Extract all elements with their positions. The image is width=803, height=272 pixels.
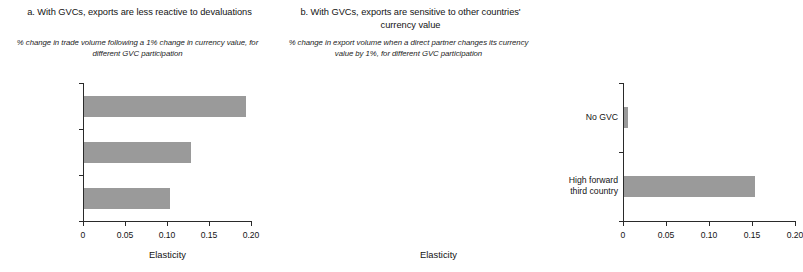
panel-a-x-tick-label-2: 0.10 [159,230,176,240]
panel-a-y-tick-2 [79,175,83,176]
panel-a-x-tick-1 [125,222,126,226]
panel-b-x-tick-label-1: 0.05 [658,230,675,240]
panel-b-plot-area: 0 0.05 0.10 0.15 0.20 No GVC High forwar… [623,83,796,222]
panel-a-y-tick-top [79,83,83,84]
panel-b-category-label-high-forward-third-country: High forward third country [508,175,618,197]
panel-a-bar-high-forward-return-domestic [84,188,170,209]
panel-b-x-tick-label-2: 0.10 [701,230,718,240]
panel-a-x-tick-label-4: 0.20 [243,230,260,240]
panel-a-bar-high-backward-gvc-participation [84,142,191,163]
panel-b-bar-high-forward-third-country [624,176,755,197]
panel-b-y-axis-line [623,83,624,222]
panel-b-subtitle: % change in export volume when a direct … [281,38,536,59]
panel-a-x-tick-label-0: 0 [81,230,86,240]
panel-a-x-tick-label-3: 0.15 [201,230,218,240]
panel-a-plot-area: 0 0.05 0.10 0.15 0.20 No GVC High backwa… [83,83,252,222]
panel-b-y-tick-top [619,83,623,84]
panel-a-x-tick-2 [167,222,168,226]
panel-b-bar-no-gvc [624,107,628,128]
panel-b-x-tick-label-0: 0 [621,230,626,240]
panel-b-x-tick-label-4: 0.20 [787,230,803,240]
panel-a-x-axis-title: Elasticity [83,249,252,260]
panel-a-x-tick-0 [83,222,84,226]
panel-b: b. With GVCs, exports are sensitive to o… [271,0,542,272]
panel-a-bar-no-gvc [84,96,246,117]
panel-a-y-tick-1 [79,129,83,130]
panel-a-subtitle: % change in trade volume following a 1% … [10,38,265,59]
panel-b-x-axis-title: Elasticity [352,249,525,260]
panel-a-x-tick-3 [209,222,210,226]
panel-b-title: b. With GVCs, exports are sensitive to o… [285,6,536,31]
panel-b-y-tick-1 [619,152,623,153]
panel-a-x-tick-label-1: 0.05 [117,230,134,240]
panel-b-x-tick-2 [709,222,710,226]
panel-b-x-tick-1 [666,222,667,226]
panel-b-category-label-no-gvc: No GVC [508,112,618,123]
panel-b-x-tick-label-3: 0.15 [744,230,761,240]
panel-a-x-tick-4 [251,222,252,226]
panel-a: a. With GVCs, exports are less reactive … [0,0,271,272]
panel-b-x-tick-4 [795,222,796,226]
panel-b-x-tick-0 [623,222,624,226]
panel-b-x-tick-3 [752,222,753,226]
panel-a-title: a. With GVCs, exports are less reactive … [14,6,265,19]
